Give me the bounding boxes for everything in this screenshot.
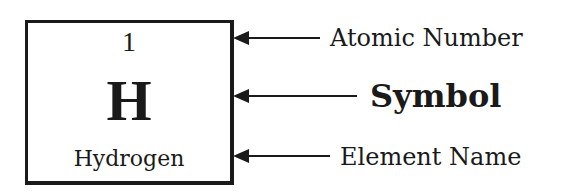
- element-name-label: Element Name: [340, 141, 521, 173]
- atomic-number-label: Atomic Number: [330, 22, 523, 54]
- element-name-arrowhead-icon: [233, 149, 249, 163]
- element-name-arrow: [233, 149, 330, 163]
- atomic-number-arrowhead-icon: [233, 31, 249, 45]
- symbol-label: Symbol: [370, 76, 501, 116]
- symbol-arrow: [233, 89, 357, 103]
- atomic-number-arrow: [233, 31, 320, 45]
- symbol-arrowhead-icon: [233, 89, 249, 103]
